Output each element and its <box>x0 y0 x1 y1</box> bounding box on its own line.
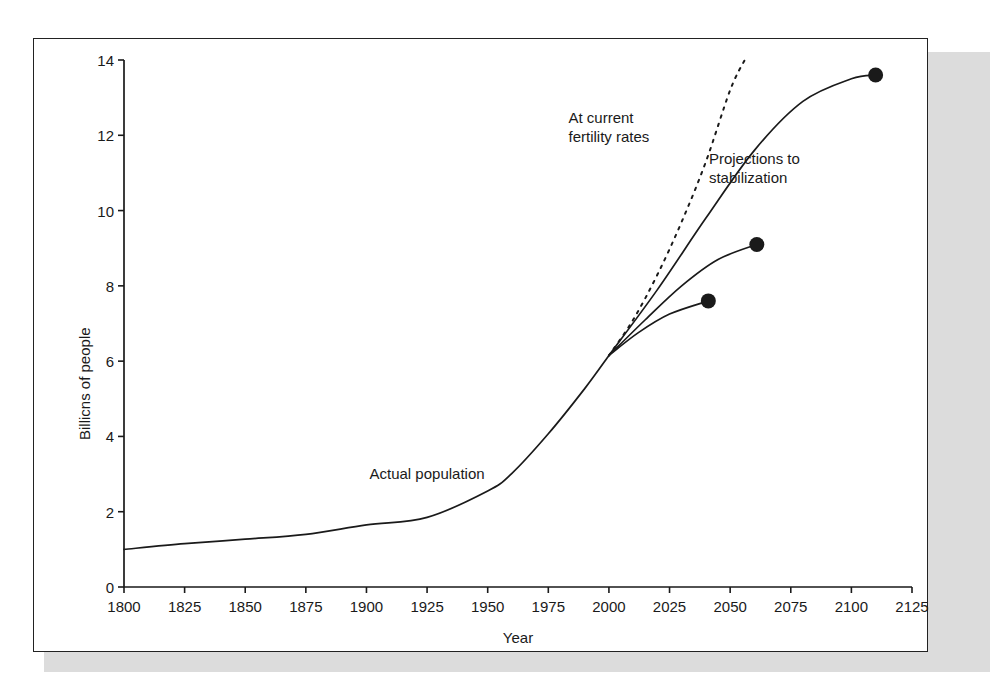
y-axis-tick-label: 4 <box>106 429 114 444</box>
y-axis-tick-label: 2 <box>106 504 114 519</box>
x-axis-tick-label: 2025 <box>653 599 686 614</box>
y-axis-tick-label: 8 <box>106 278 114 293</box>
x-axis-title: Year <box>503 629 533 646</box>
x-axis-tick-label: 1850 <box>229 599 262 614</box>
y-axis-tick-label: 12 <box>97 128 114 143</box>
x-axis-tick-label: 2075 <box>774 599 807 614</box>
x-axis-tick-label: 1900 <box>350 599 383 614</box>
x-axis-tick-label: 1875 <box>289 599 322 614</box>
x-axis-tick-label: 1925 <box>410 599 443 614</box>
y-axis-tick-label: 0 <box>106 580 114 595</box>
y-axis-tick-label: 10 <box>97 203 114 218</box>
x-axis-tick-label: 1825 <box>168 599 201 614</box>
chart-annotation-at-current-fertility-rates: At current fertility rates <box>568 109 649 147</box>
x-axis-tick-label: 1975 <box>532 599 565 614</box>
figure-frame <box>33 38 928 652</box>
x-axis-tick-label: 2050 <box>713 599 746 614</box>
y-axis-tick-label: 6 <box>106 354 114 369</box>
x-axis-tick-label: 1800 <box>107 599 140 614</box>
y-axis-tick-label: 14 <box>97 53 114 68</box>
x-axis-tick-label: 2100 <box>835 599 868 614</box>
x-axis-tick-label: 2000 <box>592 599 625 614</box>
y-axis-title: Billicns of people <box>76 327 93 440</box>
figure-root: 0246810121418001825185018751900192519501… <box>0 0 999 699</box>
x-axis-tick-label: 2125 <box>895 599 928 614</box>
chart-annotation-actual-population: Actual population <box>370 465 485 484</box>
chart-annotation-projections-to-stabilization: Projections to stabilization <box>709 150 800 188</box>
x-axis-tick-label: 1950 <box>471 599 504 614</box>
